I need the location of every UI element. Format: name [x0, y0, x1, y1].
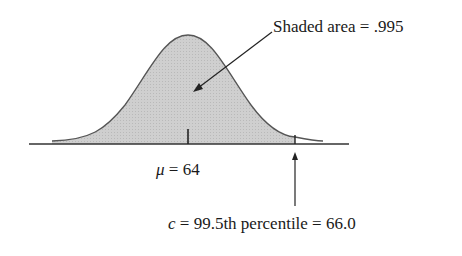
cutoff-value: = 99.5th percentile = 66.0 [176, 214, 356, 233]
shaded-region [52, 35, 295, 144]
c-symbol: c [168, 214, 176, 233]
normal-curve-diagram: Shaded area = .995 μ = 64 c = 99.5th per… [0, 0, 462, 256]
shaded-area-label: Shaded area = .995 [273, 17, 403, 37]
mean-label: μ = 64 [156, 160, 200, 180]
cutoff-arrow-head [292, 152, 298, 160]
cutoff-label: c = 99.5th percentile = 66.0 [168, 214, 356, 234]
mean-value: = 64 [165, 160, 200, 179]
mu-symbol: μ [156, 160, 165, 179]
